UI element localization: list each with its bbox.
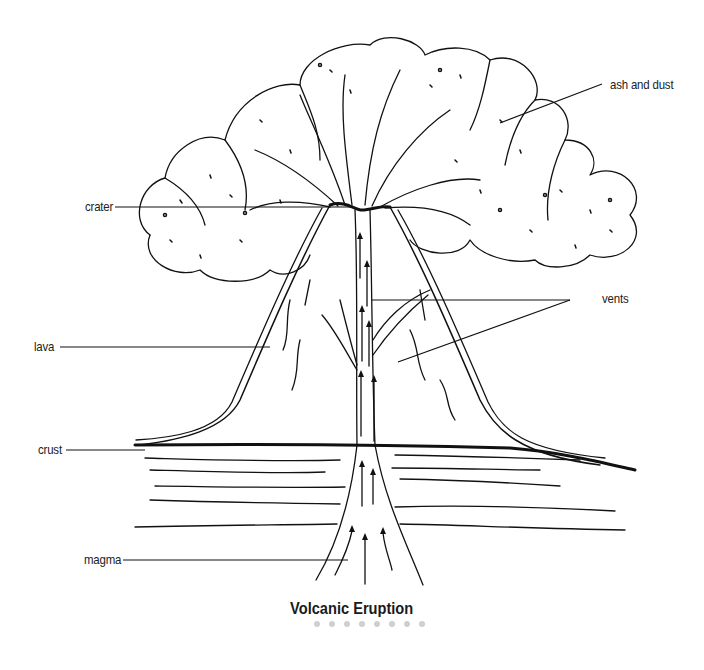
pagination-dots [314, 621, 425, 627]
ash-leader [500, 84, 602, 123]
label-vents: vents [602, 291, 628, 306]
dot [329, 621, 335, 627]
diagram-title: Volcanic Eruption [0, 599, 704, 619]
dot [374, 621, 380, 627]
dot [419, 621, 425, 627]
dot [389, 621, 395, 627]
label-crust: crust [38, 442, 62, 457]
label-lava: lava [34, 339, 54, 354]
dot [404, 621, 410, 627]
label-magma: magma [84, 552, 121, 567]
volcano-illustration [0, 0, 704, 670]
dot [344, 621, 350, 627]
ash-cloud [139, 38, 636, 267]
title-text: Volcanic Eruption [290, 599, 413, 619]
label-crater: crater [85, 199, 113, 214]
dot [359, 621, 365, 627]
label-ash-and-dust: ash and dust [610, 77, 673, 92]
dot [314, 621, 320, 627]
